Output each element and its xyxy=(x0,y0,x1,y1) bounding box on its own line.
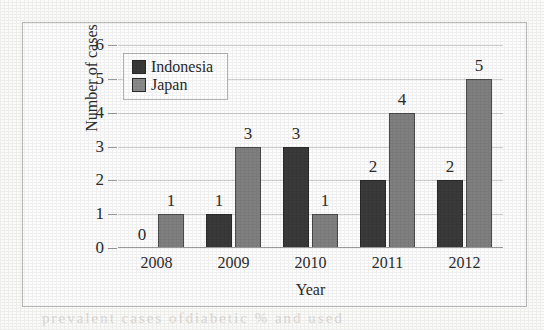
y-tick-mark xyxy=(108,147,117,148)
bar-japan[interactable]: 4 xyxy=(389,45,415,248)
y-tick-mark xyxy=(108,79,117,80)
bar-group: 25 xyxy=(426,45,503,248)
bar-group: 24 xyxy=(349,45,426,248)
bar-rect[interactable] xyxy=(312,214,338,248)
bar-value-label: 1 xyxy=(158,191,184,211)
chart-figure: Number of cases 0123456 0113312425 20082… xyxy=(22,22,527,307)
legend-item-japan: Japan xyxy=(132,76,213,94)
y-tick-label: 2 xyxy=(76,170,104,190)
y-tick-label: 1 xyxy=(76,204,104,224)
bar-rect[interactable] xyxy=(158,214,184,248)
bar-group: 31 xyxy=(272,45,349,248)
bar-value-label: 3 xyxy=(235,124,261,144)
bar-indonesia[interactable]: 2 xyxy=(360,45,386,248)
legend-item-indonesia: Indonesia xyxy=(132,58,213,76)
page-bleed-text: prevalent cases ofdiabetic % and used xyxy=(42,310,344,327)
bar-rect[interactable] xyxy=(235,147,261,249)
bar-value-label: 2 xyxy=(360,157,386,177)
bar-rect[interactable] xyxy=(437,180,463,248)
y-tick-label: 3 xyxy=(76,137,104,157)
y-tick-label: 6 xyxy=(76,35,104,55)
y-tick-mark xyxy=(108,113,117,114)
bar-rect[interactable] xyxy=(206,214,232,248)
bar-value-label: 1 xyxy=(206,191,232,211)
bar-value-label: 5 xyxy=(466,56,492,76)
plot-area: 0123456 0113312425 20082009201020112012 … xyxy=(118,45,503,248)
legend-label-indonesia: Indonesia xyxy=(151,58,213,76)
y-tick-label: 5 xyxy=(76,69,104,89)
bar-rect[interactable] xyxy=(360,180,386,248)
bar-rect[interactable] xyxy=(466,79,492,248)
bar-value-label: 4 xyxy=(389,90,415,110)
x-axis-title: Year xyxy=(118,281,503,299)
x-tick-label: 2012 xyxy=(420,254,510,272)
bar-japan[interactable]: 3 xyxy=(235,45,261,248)
bar-rect[interactable] xyxy=(389,113,415,248)
y-tick-label: 4 xyxy=(76,103,104,123)
bar-value-label: 0 xyxy=(129,225,155,245)
y-tick-mark xyxy=(108,214,117,215)
y-tick-mark xyxy=(108,248,117,249)
y-tick-mark xyxy=(108,180,117,181)
bar-rect[interactable] xyxy=(283,147,309,249)
legend: Indonesia Japan xyxy=(123,53,228,100)
legend-swatch-indonesia xyxy=(132,60,146,74)
bar-value-label: 3 xyxy=(283,124,309,144)
bar-indonesia[interactable]: 2 xyxy=(437,45,463,248)
bar-japan[interactable]: 1 xyxy=(312,45,338,248)
y-tick-label: 0 xyxy=(76,238,104,258)
y-tick-mark xyxy=(108,45,117,46)
legend-label-japan: Japan xyxy=(151,76,187,94)
scanned-page: Number of cases 0123456 0113312425 20082… xyxy=(0,0,544,330)
legend-swatch-japan xyxy=(132,78,146,92)
bar-indonesia[interactable]: 3 xyxy=(283,45,309,248)
bar-value-label: 1 xyxy=(312,191,338,211)
bar-japan[interactable]: 5 xyxy=(466,45,492,248)
x-axis-baseline xyxy=(118,247,503,248)
bar-value-label: 2 xyxy=(437,157,463,177)
